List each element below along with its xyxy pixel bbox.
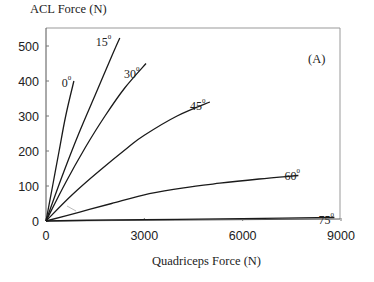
y-tick-label: 300 (18, 110, 39, 124)
curve-45deg (46, 102, 210, 221)
axis-ticks: 01002003004005000300060009000 (18, 40, 355, 244)
degree-superscript: 0 (68, 74, 72, 82)
y-tick-label: 200 (18, 145, 39, 159)
degree-superscript: 0 (330, 211, 334, 219)
x-tick-label: 9000 (327, 229, 355, 243)
y-tick-label: 500 (18, 40, 39, 54)
plot-border (46, 28, 340, 219)
line-chart: 01002003004005000300060009000 0015030045… (0, 0, 374, 282)
curve-label-75deg: 75 (318, 213, 330, 227)
annotation-mark (67, 206, 76, 211)
y-tick-label: 0 (32, 215, 39, 229)
curve-label-30deg: 30 (124, 67, 136, 81)
curve-0deg (46, 81, 74, 221)
curve-label-15deg: 15 (96, 35, 108, 49)
degree-superscript: 0 (108, 33, 112, 41)
curve-label-45deg: 45 (190, 99, 202, 113)
degree-superscript: 0 (202, 97, 206, 105)
plot-frame (46, 28, 340, 221)
curves (46, 38, 334, 221)
degree-superscript: 0 (296, 167, 300, 175)
y-tick-label: 400 (18, 75, 39, 89)
x-tick-label: 6000 (229, 229, 257, 243)
curve-60deg (46, 176, 298, 222)
curve-label-60deg: 60 (284, 169, 296, 183)
curve-15deg (46, 38, 120, 221)
degree-superscript: 0 (136, 65, 140, 73)
curve-labels: 00150300450600750 (62, 33, 335, 227)
x-tick-label: 0 (43, 229, 50, 243)
y-tick-label: 100 (18, 180, 39, 194)
x-tick-label: 3000 (130, 229, 158, 243)
